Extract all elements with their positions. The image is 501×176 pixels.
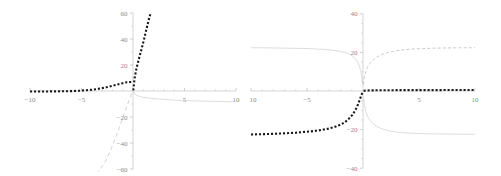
right-plot-y-tick-label: 40: [351, 10, 359, 18]
left-plot-y-tick-label: 40: [121, 36, 129, 44]
two-plot-figure: −10−5510−60−40−20204060 −10−5510−40−2020…: [0, 0, 501, 176]
left-plot-y-tick-label: 20: [121, 62, 129, 70]
left-plot-x-tick-label: −10: [25, 96, 36, 104]
right-plot-x-tick-label: 10: [472, 96, 480, 104]
right-plot-x-tick-label: −5: [303, 96, 311, 104]
right-plot-y-tick-label: −20: [347, 126, 358, 134]
left-plot: −10−5510−60−40−20204060: [0, 0, 250, 176]
right-plot-content: −10−5510−40−202040: [250, 10, 479, 172]
right-plot-x-tick-label: 5: [417, 96, 421, 104]
left-plot-content: −10−5510−60−40−20204060: [25, 10, 240, 174]
left-plot-y-tick-label: −60: [117, 166, 128, 174]
left-plot-canvas: −10−5510−60−40−20204060: [0, 0, 250, 176]
left-plot-y-tick-label: −40: [117, 140, 128, 148]
right-plot-canvas: −10−5510−40−202040: [250, 0, 501, 176]
right-plot-y-tick-label: −40: [347, 165, 358, 173]
left-plot-series-gray-dashed-steep-descending: [98, 94, 131, 172]
left-plot-x-tick-label: 10: [233, 96, 241, 104]
left-plot-x-tick-label: 5: [183, 96, 187, 104]
left-plot-series-black-dotted-steep-branch: [133, 13, 151, 90]
right-plot: −10−5510−40−202040: [250, 0, 501, 176]
right-plot-series-gray-dashed-upper-right: [363, 48, 475, 84]
left-plot-y-tick-label: 60: [121, 10, 129, 18]
right-plot-series-gray-solid-upper-left: [251, 48, 363, 84]
right-plot-x-tick-label: −10: [250, 96, 257, 104]
left-plot-x-tick-label: −5: [78, 96, 86, 104]
